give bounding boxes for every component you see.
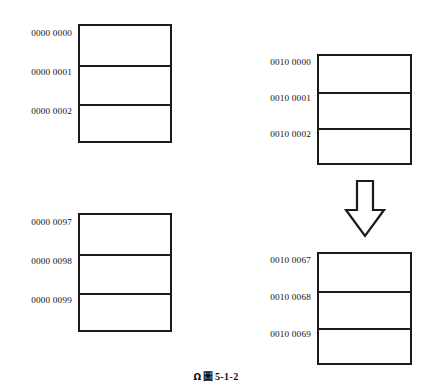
address-label: 0010 0002 <box>270 130 311 139</box>
memory-cell <box>80 104 170 141</box>
caption-figure-glyph: 圖 <box>203 371 214 382</box>
address-label: 0010 0069 <box>270 330 311 339</box>
memory-cell <box>319 92 410 128</box>
figure-canvas: 0000 0000 0000 0001 0000 0002 0000 0097 … <box>0 0 432 388</box>
address-label: 0010 0000 <box>270 58 311 67</box>
address-label: 0000 0098 <box>31 257 72 266</box>
caption-mark-icon: Ω <box>193 372 203 382</box>
memory-cell <box>319 128 410 163</box>
memory-cell <box>319 56 410 92</box>
memory-block-top-left <box>78 24 172 143</box>
address-label: 0000 0099 <box>31 296 72 305</box>
memory-block-bottom-right <box>317 252 412 365</box>
address-label: 0000 0002 <box>31 107 72 116</box>
memory-block-bottom-left <box>78 213 172 332</box>
down-arrow-icon <box>344 180 386 238</box>
memory-cell <box>80 254 170 293</box>
memory-cell <box>319 328 410 363</box>
memory-cell <box>319 291 410 328</box>
memory-cell <box>80 293 170 330</box>
address-labels-bottom-right: 0010 0067 0010 0068 0010 0069 <box>253 252 311 365</box>
memory-cell <box>80 65 170 104</box>
memory-cell <box>80 26 170 65</box>
address-labels-bottom-left: 0000 0097 0000 0098 0000 0099 <box>14 213 72 332</box>
memory-block-top-right <box>317 54 412 165</box>
address-labels-top-right: 0010 0000 0010 0001 0010 0002 <box>253 54 311 165</box>
address-label: 0000 0097 <box>31 218 72 227</box>
memory-cell <box>319 254 410 291</box>
figure-caption: Ω圖5-1-2 <box>0 368 432 383</box>
address-label: 0010 0067 <box>270 256 311 265</box>
memory-cell <box>80 215 170 254</box>
address-label: 0000 0000 <box>31 29 72 38</box>
address-label: 0000 0001 <box>31 68 72 77</box>
address-labels-top-left: 0000 0000 0000 0001 0000 0002 <box>14 24 72 143</box>
caption-number: 5-1-2 <box>215 371 239 382</box>
address-label: 0010 0001 <box>270 94 311 103</box>
address-label: 0010 0068 <box>270 293 311 302</box>
